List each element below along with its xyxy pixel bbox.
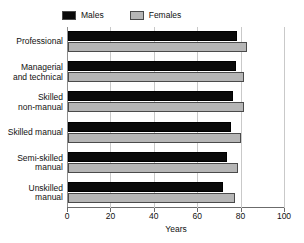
category-label-line: Professional: [1, 37, 63, 47]
category-label: Managerialand technical: [1, 63, 63, 82]
legend-entry-males: Males: [62, 11, 104, 20]
bar-group: [68, 122, 285, 144]
gridline-40: [154, 27, 155, 208]
bar-group: [68, 182, 285, 204]
x-tick-label-20: 20: [106, 211, 115, 221]
category-label-line: and technical: [1, 72, 63, 82]
x-axis-line: [67, 207, 285, 208]
category-label-line: non-manual: [1, 102, 63, 112]
bar-males: [68, 91, 233, 101]
bar-males: [68, 152, 227, 162]
bar-males: [68, 182, 223, 192]
category-axis-labels: ProfessionalManagerialand technicalSkill…: [0, 27, 63, 208]
category-label: Skillednon-manual: [1, 93, 63, 112]
legend-swatch-females-icon: [130, 11, 144, 20]
y-axis-line: [67, 27, 68, 208]
category-label: Skilled manual: [1, 128, 63, 138]
bar-females: [68, 133, 241, 143]
gridline-20: [110, 27, 111, 208]
plot-area: 020406080100: [67, 27, 285, 208]
x-axis-title: Years: [67, 224, 285, 234]
legend-label-males: Males: [81, 11, 104, 20]
x-tick-label-60: 60: [192, 211, 201, 221]
category-label-line: Skilled manual: [1, 128, 63, 138]
legend-label-females: Females: [149, 11, 182, 20]
bar-females: [68, 193, 235, 203]
bar-group: [68, 152, 285, 174]
bar-group: [68, 91, 285, 113]
bar-females: [68, 102, 244, 112]
x-tick-label-80: 80: [236, 211, 245, 221]
bar-males: [68, 61, 236, 71]
gridline-60: [197, 27, 198, 208]
category-label: Semi-skilledmanual: [1, 153, 63, 172]
x-tick-label-0: 0: [65, 211, 70, 221]
category-label-line: manual: [1, 163, 63, 173]
bar-group: [68, 61, 285, 83]
category-label: Unskilledmanual: [1, 183, 63, 202]
bar-group: [68, 31, 285, 53]
bar-males: [68, 31, 237, 41]
x-tick-label-40: 40: [149, 211, 158, 221]
legend-swatch-males-icon: [62, 11, 76, 20]
legend-entry-females: Females: [130, 11, 182, 20]
bar-females: [68, 42, 247, 52]
x-tick-label-100: 100: [277, 211, 291, 221]
category-label: Professional: [1, 37, 63, 47]
bar-chart: Males Females ProfessionalManagerialand …: [0, 0, 304, 243]
gridline-100: [284, 27, 285, 208]
gridline-80: [241, 27, 242, 208]
bar-females: [68, 72, 244, 82]
category-label-line: manual: [1, 193, 63, 203]
bar-males: [68, 122, 231, 132]
chart-legend: Males Females: [62, 8, 181, 22]
bar-females: [68, 163, 238, 173]
